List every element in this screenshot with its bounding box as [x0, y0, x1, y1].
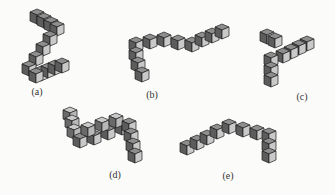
panel-label-d: (d): [109, 169, 121, 180]
panel-label-e: (e): [222, 170, 233, 181]
cube-figures: [0, 0, 335, 195]
panel-label-c: (c): [296, 91, 307, 102]
panel-label-b: (b): [146, 89, 158, 100]
panel-e-cubes: [180, 119, 276, 163]
panel-label-a: (a): [31, 86, 42, 97]
panel-b-cubes: [129, 24, 229, 82]
panel-d-cubes: [63, 107, 142, 163]
panel-a-cubes: [22, 9, 69, 83]
panel-c-cubes: [260, 29, 314, 87]
